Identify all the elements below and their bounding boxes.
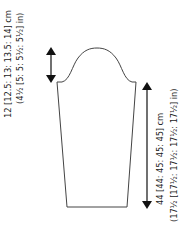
cap-depth-arrow-icon (46, 47, 56, 83)
cap-depth-in-label: (4½ [5: 5: 5½: 5½] in) (15, 13, 25, 104)
sleeve-length-cm-label: 44 [44: 45: 45: 45] cm (155, 113, 165, 205)
sleeve-length-in-label: (17½ [17½: 17½: 17½: 17½] in) (169, 89, 179, 222)
sleeve-length-arrow-icon (142, 82, 152, 209)
sleeve-outline (57, 48, 136, 207)
cap-depth-cm-label: 12 [12.5: 13: 13.5: 14] cm (3, 10, 13, 118)
